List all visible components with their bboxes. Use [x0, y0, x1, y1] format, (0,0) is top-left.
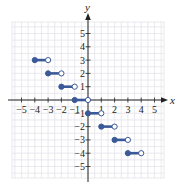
open-dot-icon: [112, 124, 117, 129]
closed-dot-icon: [112, 137, 117, 142]
closed-dot-icon: [85, 111, 90, 116]
x-tick-label: 4: [139, 104, 144, 115]
closed-dot-icon: [125, 151, 130, 156]
closed-dot-icon: [32, 58, 37, 63]
closed-dot-icon: [99, 124, 104, 129]
closed-dot-icon: [46, 71, 51, 76]
x-tick-label: −2: [56, 104, 67, 115]
open-dot-icon: [99, 111, 104, 116]
x-tick-label: 5: [152, 104, 157, 115]
x-tick-label: −4: [29, 104, 40, 115]
y-tick-label: −3: [74, 134, 85, 145]
open-dot-icon: [85, 97, 90, 102]
y-tick-label: −5: [74, 161, 85, 172]
y-tick-label: 1: [80, 81, 85, 92]
closed-dot-icon: [72, 97, 77, 102]
x-tick-label: −3: [43, 104, 54, 115]
step-function-chart: −5−4−3−2−11234554321−1−2−3−4−5 x y: [0, 0, 179, 188]
x-axis-label: x: [169, 94, 175, 106]
open-dot-icon: [139, 151, 144, 156]
y-tick-label: −4: [74, 148, 85, 159]
y-tick-label: 2: [80, 68, 85, 79]
open-dot-icon: [125, 137, 130, 142]
y-tick-label: 4: [80, 41, 85, 52]
open-dot-icon: [59, 71, 64, 76]
y-axis-label: y: [84, 1, 90, 13]
y-tick-label: 5: [80, 28, 85, 39]
y-tick-label: 3: [80, 55, 85, 66]
y-axis-arrow-icon: [85, 13, 91, 20]
y-tick-label: −2: [74, 121, 85, 132]
x-tick-label: 3: [125, 104, 130, 115]
open-dot-icon: [72, 84, 77, 89]
x-axis-arrow-icon: [161, 97, 168, 103]
open-dot-icon: [46, 58, 51, 63]
x-tick-label: −5: [16, 104, 27, 115]
x-tick-label: 2: [112, 104, 117, 115]
closed-dot-icon: [59, 84, 64, 89]
y-tick-label: −1: [74, 108, 85, 119]
